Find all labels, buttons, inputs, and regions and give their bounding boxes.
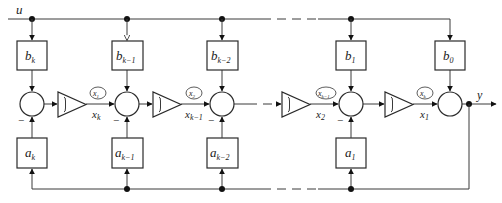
sum-node-k-minus-1 (115, 92, 139, 116)
block-diagram: u bk bk−1 bk−2 b1 (0, 0, 502, 203)
state-tag-2: x2 (186, 87, 202, 99)
junction-dot (219, 186, 225, 192)
b-gain-1: b1 (336, 41, 366, 70)
input-bus (8, 16, 450, 22)
svg-text:−: − (113, 114, 119, 126)
integrator-2 (153, 92, 181, 117)
junction-dot (348, 186, 354, 192)
svg-text:−: − (18, 114, 24, 126)
sum-node-1 (339, 92, 363, 116)
state-tag-k-minus-1: xk−1 (316, 87, 336, 99)
svg-text:−: − (208, 114, 214, 126)
forward-path (44, 101, 496, 107)
output-label: y (476, 88, 483, 102)
svg-text:x1: x1 (419, 108, 429, 122)
a-gain-1: a1 (336, 138, 366, 168)
b-gain-k-minus-1: bk−1 (112, 41, 143, 70)
a-gain-k: ak (17, 138, 47, 168)
input-label: u (16, 2, 23, 17)
svg-text:xk−1: xk−1 (184, 108, 203, 122)
integrator-4 (385, 92, 413, 117)
feedforward-branches (32, 19, 450, 91)
integrator-3 (282, 92, 310, 117)
state-tag-1: x1 (90, 87, 106, 99)
a-gain-k-minus-2: ak−2 (207, 138, 238, 168)
state-tag-k: xk (417, 87, 433, 99)
svg-text:x2: x2 (315, 108, 325, 122)
signal-labels: xk xk−1 x2 x1 (91, 108, 429, 122)
b-gain-k: bk (17, 41, 47, 70)
sum-node-k (20, 92, 44, 116)
sum-node-output (438, 92, 462, 116)
a-gain-k-minus-1: ak−1 (112, 138, 143, 168)
sum-node-k-minus-2 (210, 92, 234, 116)
integrator-1 (58, 92, 86, 117)
minus-signs: − − − − (18, 114, 343, 126)
b-gain-0: b0 (435, 41, 465, 70)
junction-dot (124, 186, 130, 192)
svg-text:−: − (337, 114, 343, 126)
svg-text:xk: xk (91, 108, 101, 122)
feedback-branches (32, 117, 351, 189)
b-gain-k-minus-2: bk−2 (207, 41, 238, 70)
